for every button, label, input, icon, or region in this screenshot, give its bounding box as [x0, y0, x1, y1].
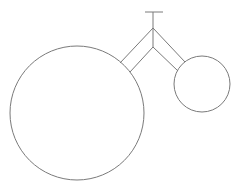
large-circle [10, 46, 144, 180]
small-circle [174, 56, 230, 112]
v-connector-inner [130, 47, 178, 72]
diagram-canvas [0, 0, 244, 191]
